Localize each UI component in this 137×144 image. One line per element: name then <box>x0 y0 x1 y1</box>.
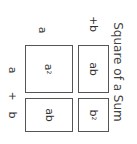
box-ab-right-label: ab <box>85 59 103 79</box>
base: b <box>88 110 101 117</box>
box-ab-right: ab <box>78 45 109 93</box>
diagram-title: Square of a Sum <box>110 22 126 122</box>
left-label-b: b <box>5 107 21 123</box>
box-ab-bottom-label: ab <box>41 105 59 125</box>
base: a <box>43 64 56 71</box>
box-b-squared: b2 <box>78 98 109 132</box>
box-b-squared-label: b2 <box>85 105 103 125</box>
left-label-a: a <box>5 62 21 78</box>
box-a-squared: a2 <box>25 45 73 93</box>
box-a-squared-label: a2 <box>40 60 58 78</box>
left-label-plus: + <box>5 88 21 104</box>
box-ab-bottom: ab <box>25 98 73 132</box>
top-label-a: a <box>35 22 51 38</box>
top-label-b: +b <box>86 15 102 33</box>
